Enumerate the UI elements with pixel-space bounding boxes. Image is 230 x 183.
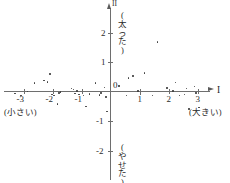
y-tick-label-1: 1 [101, 58, 106, 67]
data-point [89, 93, 91, 95]
data-point [157, 41, 159, 43]
y-axis-arrow-icon [107, 3, 111, 9]
data-point [49, 73, 51, 75]
data-point [179, 95, 181, 97]
data-point [71, 88, 73, 90]
x-axis-line [4, 91, 210, 92]
data-point [137, 90, 139, 92]
annotation-top-text: (太った) [117, 11, 128, 55]
data-point [57, 103, 59, 105]
y-axis-line [110, 8, 111, 180]
data-point [104, 87, 106, 89]
data-point [172, 90, 174, 92]
data-point [118, 85, 120, 87]
y-tick-2 [108, 33, 113, 34]
data-point [100, 92, 102, 94]
annotation-left: (小さい) [4, 108, 37, 117]
x-tick-label--3: -3 [17, 95, 25, 104]
data-point [132, 75, 134, 77]
data-point [194, 86, 196, 88]
scatter-plot-figure: I II -3-2-112321-1-2 0 (太った) (やせた) (小さい)… [0, 0, 230, 183]
data-point [43, 80, 45, 82]
x-tick-label-2: 2 [167, 95, 172, 104]
data-point [166, 87, 168, 89]
y-tick--2 [108, 151, 113, 152]
x-tick-label-3: 3 [196, 95, 201, 104]
annotation-bottom-text: (やせた) [117, 143, 128, 183]
data-point [105, 96, 107, 98]
data-point [128, 77, 130, 79]
y-tick-label-2: 2 [101, 29, 106, 38]
x-axis-label: I [217, 86, 220, 96]
x-tick-label-1: 1 [138, 95, 143, 104]
data-point [76, 90, 78, 92]
y-tick--1 [108, 121, 113, 122]
data-point [152, 95, 154, 97]
x-tick-label--2: -2 [46, 95, 54, 104]
data-point [47, 81, 49, 83]
data-point [95, 82, 97, 84]
y-tick-label--2: -2 [96, 147, 104, 156]
data-point [85, 106, 87, 108]
annotation-right: (大きい) [189, 108, 222, 117]
data-point [188, 108, 190, 110]
data-point [144, 72, 146, 74]
data-point [73, 89, 75, 91]
data-point [106, 111, 108, 113]
y-axis-label: II [112, 0, 117, 8]
y-tick-label--1: -1 [96, 117, 104, 126]
annotation-bottom: (やせた) [117, 143, 128, 183]
data-point [126, 95, 128, 97]
x-axis-arrow-icon [208, 87, 214, 91]
data-point [34, 82, 36, 84]
data-point [184, 94, 186, 96]
data-point [14, 93, 16, 95]
data-point [99, 94, 101, 96]
data-point [186, 88, 188, 90]
data-point [53, 95, 55, 97]
y-tick-1 [108, 62, 113, 63]
annotation-top: (太った) [117, 11, 128, 55]
data-point [195, 92, 197, 94]
data-point [83, 95, 85, 97]
data-point [27, 91, 29, 93]
data-point [175, 82, 177, 84]
origin-tick-label: 0 [113, 81, 118, 90]
x-tick-label--1: -1 [75, 95, 83, 104]
data-point [20, 95, 22, 97]
